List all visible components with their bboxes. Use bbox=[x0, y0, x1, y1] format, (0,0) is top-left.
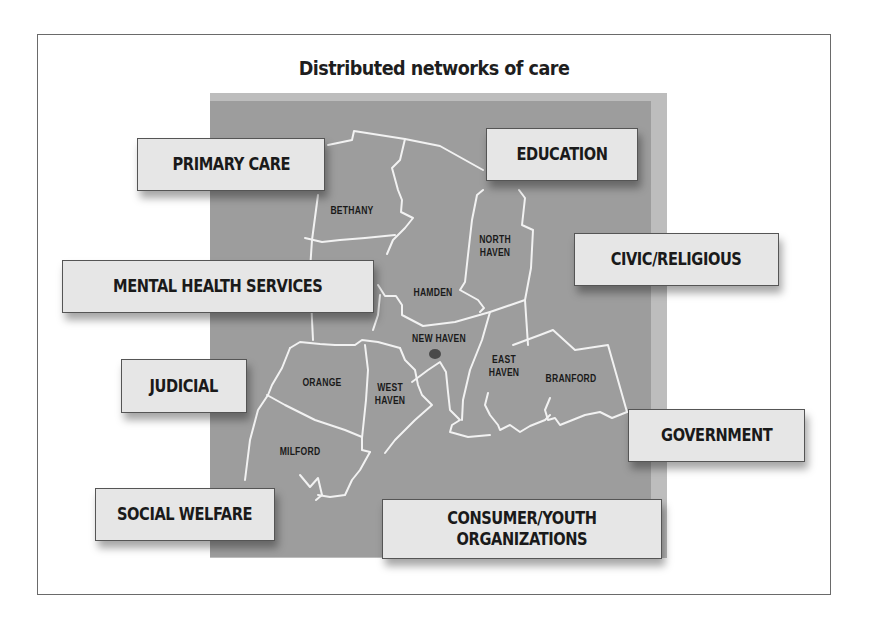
sector-government-text: GOVERNMENT bbox=[661, 425, 772, 446]
town-west-haven-line2: HAVEN bbox=[371, 394, 410, 407]
sector-education-text: EDUCATION bbox=[516, 144, 607, 165]
town-north-haven-line2: HAVEN bbox=[476, 246, 515, 259]
town-east-haven-line2: HAVEN bbox=[485, 366, 522, 379]
town-orange: ORANGE bbox=[297, 376, 347, 389]
sector-civic-religious: CIVIC/RELIGIOUS bbox=[574, 233, 779, 286]
town-hamden: HAMDEN bbox=[410, 286, 457, 299]
town-north-haven-line1: NORTH bbox=[476, 233, 515, 246]
sector-social-welfare-text: SOCIAL WELFARE bbox=[117, 504, 252, 525]
town-milford: MILFORD bbox=[275, 445, 325, 458]
new-haven-marker bbox=[429, 349, 441, 359]
town-east-haven-line1: EAST bbox=[485, 353, 522, 366]
sector-consumer-youth-line1: CONSUMER/YOUTH bbox=[447, 508, 596, 529]
sector-judicial: JUDICIAL bbox=[121, 359, 247, 413]
sector-education: EDUCATION bbox=[486, 128, 638, 181]
sector-government: GOVERNMENT bbox=[628, 409, 805, 462]
town-bethany: BETHANY bbox=[329, 204, 376, 217]
sector-mental-health-services-text: MENTAL HEALTH SERVICES bbox=[113, 276, 322, 297]
sector-civic-religious-text: CIVIC/RELIGIOUS bbox=[611, 249, 742, 270]
town-branford: BRANFORD bbox=[540, 372, 602, 385]
sector-judicial-text: JUDICIAL bbox=[150, 376, 218, 397]
sector-consumer-youth-organizations: CONSUMER/YOUTH ORGANIZATIONS bbox=[382, 499, 662, 559]
town-new-haven: NEW HAVEN bbox=[407, 332, 471, 345]
sector-mental-health-services: MENTAL HEALTH SERVICES bbox=[62, 260, 374, 313]
sector-primary-care: PRIMARY CARE bbox=[137, 138, 325, 191]
sector-social-welfare: SOCIAL WELFARE bbox=[95, 488, 275, 541]
sector-primary-care-text: PRIMARY CARE bbox=[172, 154, 290, 175]
sector-consumer-youth-line2: ORGANIZATIONS bbox=[457, 529, 587, 550]
town-west-haven-line1: WEST bbox=[371, 381, 410, 394]
